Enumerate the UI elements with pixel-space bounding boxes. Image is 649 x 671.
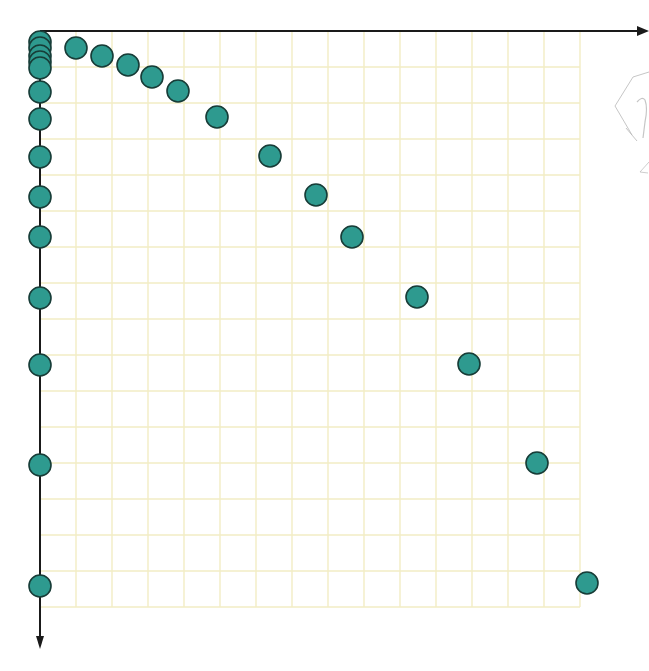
data-point	[29, 454, 51, 476]
data-point	[29, 575, 51, 597]
sketch-stroke	[626, 128, 637, 141]
data-point	[29, 146, 51, 168]
data-point	[117, 54, 139, 76]
data-point	[29, 57, 51, 79]
x-axis-arrow-icon	[637, 26, 649, 36]
curve-points	[65, 37, 598, 594]
data-point	[29, 108, 51, 130]
data-point	[406, 286, 428, 308]
data-point	[91, 45, 113, 67]
data-point	[29, 287, 51, 309]
sketch-stroke	[637, 98, 647, 138]
data-point	[29, 186, 51, 208]
sketch-stroke	[640, 162, 649, 173]
data-point	[576, 572, 598, 594]
sketch-stroke	[615, 72, 649, 135]
data-point	[141, 66, 163, 88]
scatter-chart	[0, 0, 649, 671]
data-point	[458, 353, 480, 375]
data-point	[167, 80, 189, 102]
grid-lines	[40, 31, 580, 607]
data-point	[526, 452, 548, 474]
axes	[36, 26, 649, 649]
data-point	[29, 81, 51, 103]
y-axis-arrow-icon	[36, 636, 44, 649]
data-point	[341, 226, 363, 248]
pencil-sketch-annotation	[615, 72, 649, 173]
data-point	[29, 226, 51, 248]
data-point	[305, 184, 327, 206]
data-point	[206, 106, 228, 128]
data-point	[259, 145, 281, 167]
data-point	[29, 354, 51, 376]
data-point	[65, 37, 87, 59]
